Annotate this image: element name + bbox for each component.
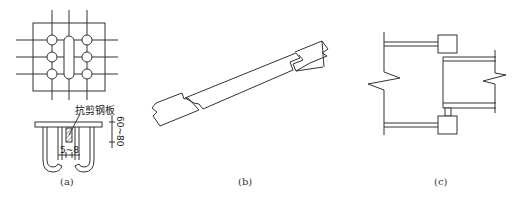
panel-a-label: (a): [60, 176, 74, 187]
figure-canvas: [0, 0, 520, 202]
top-bracket: [438, 35, 457, 53]
height-dimension-label: 60~80: [115, 116, 125, 146]
bottom-bracket: [438, 116, 457, 134]
gap-dimension-label: 5~8: [60, 145, 79, 155]
shear-steel-plate-label: 抗剪钢板: [75, 102, 115, 117]
slot-hole: [64, 36, 74, 79]
panel-a-section-view: [35, 114, 115, 172]
panel-b-lap-joint: [152, 41, 328, 126]
panel-b-label: (b): [238, 176, 252, 187]
support-connector: [445, 108, 451, 116]
panel-c-beam-connection: [368, 32, 506, 135]
panel-c-label: (c): [434, 176, 447, 187]
panel-a-plan-view: [16, 10, 118, 100]
